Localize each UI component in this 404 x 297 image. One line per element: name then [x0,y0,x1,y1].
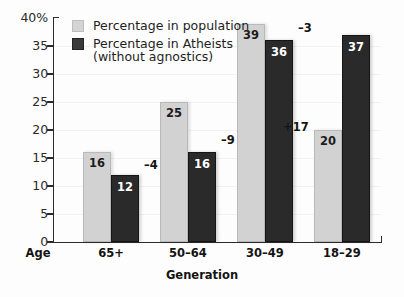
legend-label: Percentage in Atheists (without agnostic… [93,37,233,64]
bar-population-50-64: 25 [160,102,188,242]
y-tick-label-30: 30 [32,68,48,81]
legend: Percentage in population Percentage in A… [72,19,249,68]
y-tick-label-20: 20 [32,124,48,137]
legend-item-atheists: Percentage in Atheists (without agnostic… [72,37,249,64]
y-tick-label-35: 35 [32,40,48,53]
bar-population-18-29: 20 [314,130,342,242]
delta-label-65plus: –4 [144,160,158,172]
light-gray-swatch-icon [72,20,84,32]
axis-row-header: Age [10,248,66,260]
bar-value-label: 25 [161,108,187,120]
bar-population-65plus: 16 [83,152,111,242]
legend-label: Percentage in population [93,19,249,33]
y-tick-label-15: 15 [32,152,48,165]
bar-value-label: 36 [266,47,292,59]
legend-item-population: Percentage in population [72,19,249,33]
bar-value-label: 12 [112,182,138,194]
bar-chart: 0 5 10 15 20 25 30 35 40% 16 12 –4 65+ 2… [0,0,404,297]
x-axis-title: Generation [0,270,404,282]
x-tick-label-50-64: 50–64 [160,248,216,260]
bar-atheists-50-64: 16 [188,152,216,242]
gridline [54,74,381,75]
dark-gray-swatch-icon [72,38,84,50]
y-tick-label-25: 25 [32,96,48,109]
bar-atheists-30-49: 36 [265,40,293,242]
y-tick-label-5: 5 [40,208,48,221]
y-tick-label-10: 10 [32,180,48,193]
y-tick-label-40: 40% [21,12,48,25]
delta-label-30-49: –3 [298,23,312,35]
x-axis-right-cap [381,236,382,243]
x-tick-label-65plus: 65+ [83,248,139,260]
x-axis-line [53,242,382,243]
y-axis-line [53,17,54,243]
bar-atheists-65plus: 12 [111,175,139,242]
bar-atheists-18-29: 37 [342,35,370,242]
bar-value-label: 16 [84,158,110,170]
bar-value-label: 16 [189,159,215,171]
y-axis-top-cap [53,17,59,18]
bar-value-label: 20 [315,136,341,148]
delta-label-18-29: +17 [283,122,309,134]
gridline [54,102,381,103]
x-tick-label-30-49: 30–49 [237,248,293,260]
delta-label-50-64: –9 [221,135,235,147]
bar-value-label: 37 [343,42,369,54]
x-tick-label-18-29: 18–29 [314,248,370,260]
